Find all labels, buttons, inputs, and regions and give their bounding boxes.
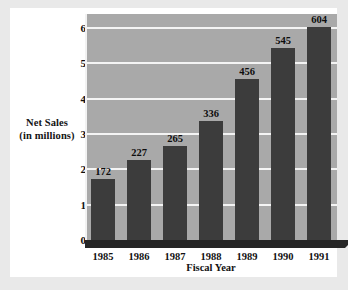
bar[interactable] [307,27,331,240]
bar[interactable] [271,48,295,240]
bar-group[interactable]: 265 [163,14,187,240]
bar-value-label: 456 [228,66,266,77]
x-axis-tick: 1989 [228,251,266,262]
bar-value-label: 265 [156,133,194,144]
y-axis-tick: 1 [68,199,86,211]
x-axis-baseline [85,240,345,248]
bar-group[interactable]: 336 [199,14,223,240]
y-axis-tick: 6 [68,22,86,34]
chart-card: Net Sales (in millions) 0123456 17222726… [10,8,337,277]
bar-group[interactable]: 545 [271,14,295,240]
bars-layer: 172227265336456545604 [85,14,337,240]
bar-value-label: 545 [264,35,302,46]
y-axis-tick: 3 [68,128,86,140]
y-axis-tick-labels: 0123456 [68,8,86,277]
x-axis-tick: 1988 [192,251,230,262]
bar-group[interactable]: 227 [127,14,151,240]
bar-value-label: 172 [84,166,122,177]
bar[interactable] [199,121,223,240]
y-axis-title-line1: Net Sales [26,117,68,128]
bar-group[interactable]: 456 [235,14,259,240]
bar[interactable] [127,160,151,240]
bar-value-label: 336 [192,108,230,119]
bar[interactable] [91,179,115,240]
x-axis-title: Fiscal Year [85,262,337,273]
bar[interactable] [235,79,259,240]
y-axis-line [85,14,87,240]
x-axis-tick: 1985 [84,251,122,262]
x-axis-tick: 1986 [120,251,158,262]
x-axis-tick: 1987 [156,251,194,262]
bar-group[interactable]: 604 [307,14,331,240]
bar[interactable] [163,146,187,240]
x-axis-tick: 1990 [264,251,302,262]
y-axis-tick: 4 [68,93,86,105]
bar-value-label: 227 [120,147,158,158]
bar-value-label: 604 [300,14,338,25]
plot-area: 172227265336456545604 [85,14,337,240]
x-axis-tick: 1991 [300,251,338,262]
y-axis-tick: 5 [68,57,86,69]
y-axis-tick: 0 [68,234,86,246]
bar-group[interactable]: 172 [91,14,115,240]
